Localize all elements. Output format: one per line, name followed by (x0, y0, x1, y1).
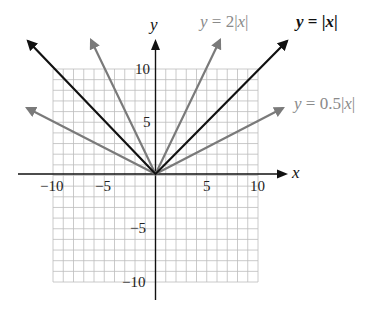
y-tick-5: 5 (143, 114, 151, 131)
graph-canvas (0, 0, 390, 313)
label-abs-eq: = | (304, 12, 326, 31)
y-axis-arrow-icon (151, 39, 160, 50)
label-abs-prefix: y (296, 12, 304, 31)
label-half-eq: = 0.5| (302, 94, 345, 113)
label-half-var: x (344, 94, 352, 113)
label-2abs-eq: = 2| (208, 12, 238, 31)
label-half-prefix: y (294, 94, 302, 113)
y-tick-neg10: −10 (122, 274, 145, 291)
y-tick-10: 10 (135, 61, 150, 78)
label-y-equals-half-abs-x: y = 0.5|x| (294, 94, 355, 114)
label-y-equals-2abs-x: y = 2|x| (200, 12, 249, 32)
x-tick-10: 10 (250, 178, 265, 195)
x-axis-arrow-icon (277, 170, 288, 179)
label-2abs-var: x (238, 12, 246, 31)
x-axis-label: x (292, 163, 300, 183)
label-half-suffix: | (352, 94, 355, 113)
label-abs-suffix: | (334, 12, 338, 31)
y-axis-label: y (150, 15, 158, 35)
label-abs-var: x (325, 12, 334, 31)
label-2abs-prefix: y (200, 12, 208, 31)
x-tick-5: 5 (203, 178, 211, 195)
y-tick-neg5: −5 (130, 220, 146, 237)
x-tick-neg5: −5 (95, 178, 111, 195)
x-tick-neg10: −10 (40, 178, 63, 195)
label-y-equals-abs-x: y = |x| (296, 12, 338, 32)
label-2abs-suffix: | (245, 12, 248, 31)
